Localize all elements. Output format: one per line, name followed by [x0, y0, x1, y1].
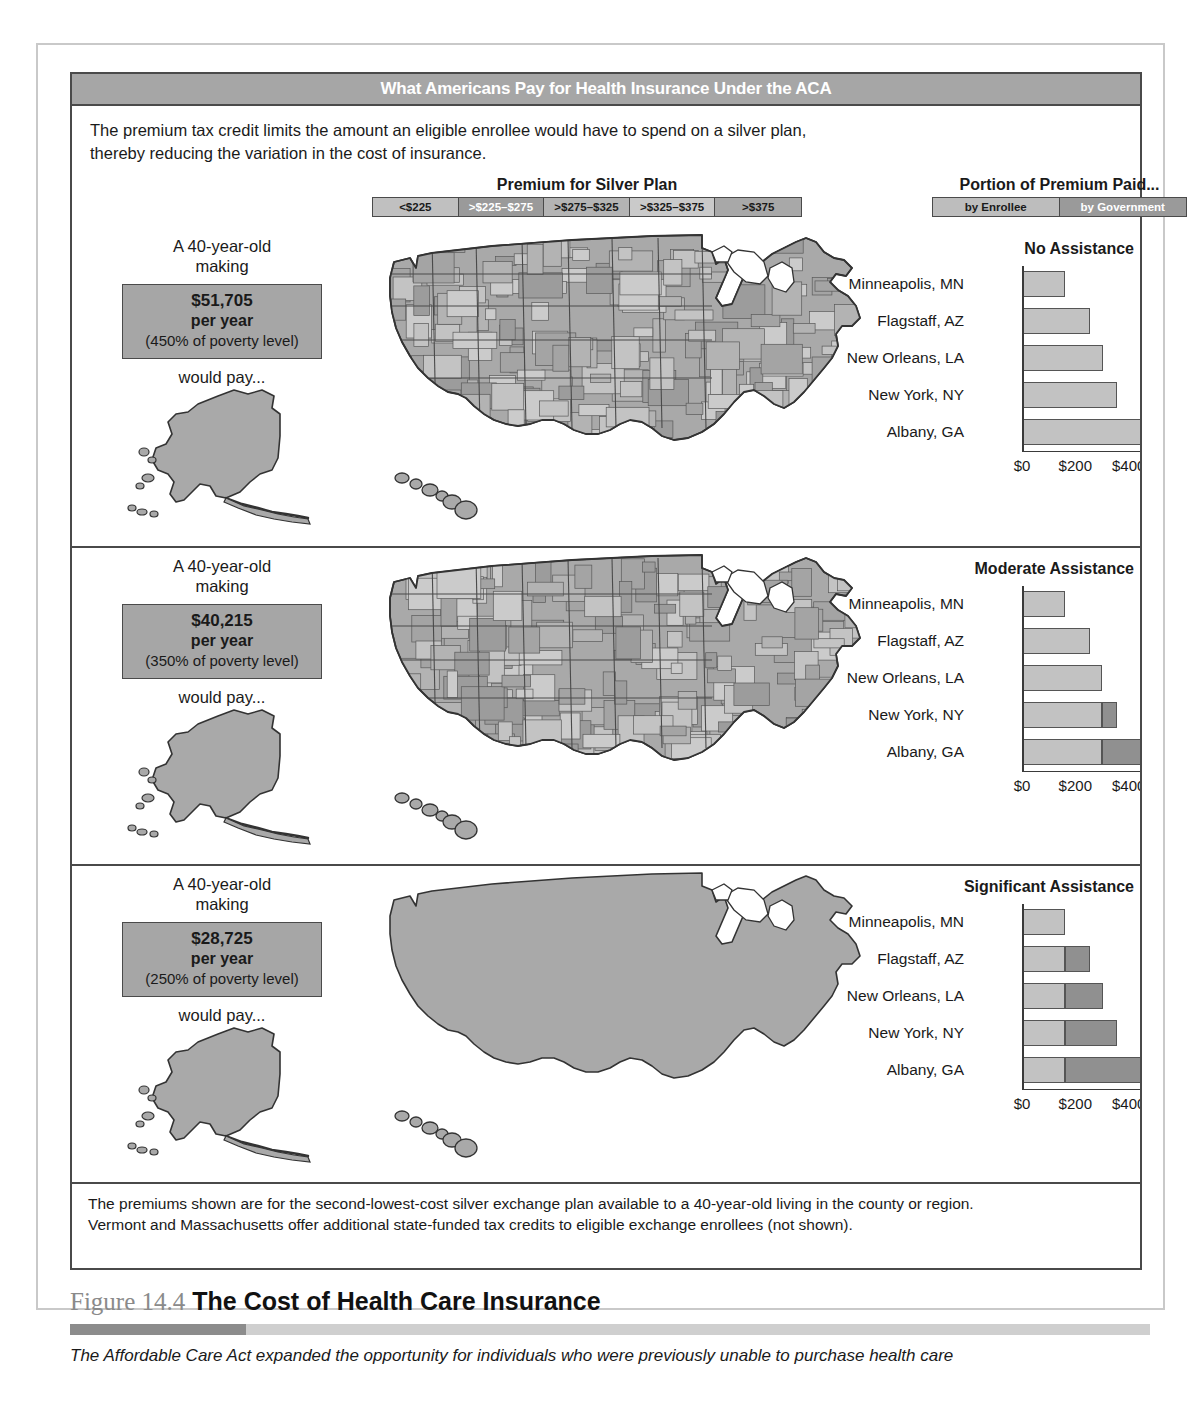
bar-segment-government[interactable]	[1102, 702, 1117, 728]
bar-label: Minneapolis, MN	[774, 595, 964, 613]
bar-label: Minneapolis, MN	[774, 275, 964, 293]
bar-segment-enrollee[interactable]	[1022, 702, 1102, 728]
bar-segment-enrollee[interactable]	[1022, 382, 1117, 408]
bar-segment-government[interactable]	[1065, 1057, 1140, 1083]
chart-no-assistance: No AssistanceMinneapolis, MNFlagstaff, A…	[877, 228, 1140, 546]
chart-plot-area: Minneapolis, MNFlagstaff, AZNew Orleans,…	[877, 266, 1140, 451]
bar-label: Flagstaff, AZ	[774, 312, 964, 330]
portion-legend-heading: Portion of Premium Paid...	[932, 176, 1187, 194]
panel-moderate-assistance: A 40-year-oldmaking$40,215per year(350% …	[72, 546, 1140, 864]
bar-label: New Orleans, LA	[774, 349, 964, 367]
alaska-map	[122, 1012, 337, 1172]
bar-row[interactable]: New Orleans, LA	[877, 978, 1140, 1015]
bar-segment-enrollee[interactable]	[1022, 345, 1103, 371]
bar-track	[1022, 665, 1140, 691]
portion-legend: Portion of Premium Paid... by Enrolleeby…	[932, 176, 1187, 217]
chart-plot-area: Minneapolis, MNFlagstaff, AZNew Orleans,…	[877, 586, 1140, 771]
panel-significant-assistance: A 40-year-oldmaking$28,725per year(250% …	[72, 864, 1140, 1182]
bar-row[interactable]: New York, NY	[877, 377, 1140, 414]
bar-row[interactable]: New York, NY	[877, 1015, 1140, 1052]
bar-segment-government[interactable]	[1065, 983, 1104, 1009]
bar-segment-enrollee[interactable]	[1022, 909, 1065, 935]
x-tick-label: $400	[1112, 1095, 1140, 1112]
panel-left-column: A 40-year-oldmaking$28,725per year(250% …	[72, 866, 372, 1182]
caption-figure-number: Figure 14.4	[70, 1288, 185, 1315]
bar-label: Flagstaff, AZ	[774, 632, 964, 650]
footnote-line-1: The premiums shown are for the second-lo…	[88, 1193, 1124, 1214]
x-tick-label: $0	[1014, 457, 1031, 474]
x-tick-label: $200	[1059, 777, 1092, 794]
bar-segment-government[interactable]	[1102, 739, 1140, 765]
portion-swatch-strip: by Enrolleeby Government	[932, 197, 1187, 217]
bar-segment-enrollee[interactable]	[1022, 1020, 1065, 1046]
bar-segment-enrollee[interactable]	[1022, 628, 1090, 654]
x-tick-label: $0	[1014, 1095, 1031, 1112]
bar-segment-government[interactable]	[1065, 1020, 1117, 1046]
income-box: $51,705per year(450% of poverty level)	[122, 284, 322, 359]
figure-caption: Figure 14.4 The Cost of Health Care Insu…	[70, 1288, 1150, 1366]
bar-track	[1022, 591, 1140, 617]
premium-legend: Premium for Silver Plan <$225>$225–$275>…	[372, 176, 802, 217]
intro-text: The premium tax credit limits the amount…	[72, 106, 1140, 174]
bar-segment-enrollee[interactable]	[1022, 271, 1065, 297]
premium-swatch-0[interactable]: <$225	[373, 198, 459, 216]
bar-segment-enrollee[interactable]	[1022, 946, 1065, 972]
lead-line-1: A 40-year-old	[72, 874, 372, 895]
portion-swatch-0[interactable]: by Enrollee	[933, 198, 1060, 216]
chart-y-axis	[1022, 904, 1024, 1089]
bar-segment-enrollee[interactable]	[1022, 419, 1140, 445]
caption-rule	[70, 1324, 1150, 1335]
bar-segment-enrollee[interactable]	[1022, 1057, 1065, 1083]
premium-swatch-3[interactable]: >$325–$375	[630, 198, 716, 216]
bar-row[interactable]: Minneapolis, MN	[877, 586, 1140, 623]
bar-row[interactable]: Minneapolis, MN	[877, 904, 1140, 941]
bar-segment-enrollee[interactable]	[1022, 591, 1065, 617]
footnote-line-2: Vermont and Massachusetts offer addition…	[88, 1214, 1124, 1235]
premium-swatch-2[interactable]: >$275–$325	[544, 198, 630, 216]
panel-left-column: A 40-year-oldmaking$40,215per year(350% …	[72, 548, 372, 864]
bar-row[interactable]: Flagstaff, AZ	[877, 303, 1140, 340]
bar-row[interactable]: Albany, GA	[877, 414, 1140, 451]
bar-segment-enrollee[interactable]	[1022, 665, 1102, 691]
alaska-map	[122, 374, 337, 534]
bar-row[interactable]: New Orleans, LA	[877, 660, 1140, 697]
bar-row[interactable]: New York, NY	[877, 697, 1140, 734]
chart-title: No Assistance	[877, 240, 1140, 258]
bar-row[interactable]: New Orleans, LA	[877, 340, 1140, 377]
bar-row[interactable]: Flagstaff, AZ	[877, 623, 1140, 660]
income-poverty-note: (450% of poverty level)	[125, 331, 319, 351]
premium-swatch-1[interactable]: >$225–$275	[459, 198, 545, 216]
bar-track	[1022, 983, 1140, 1009]
chart-significant-assistance: Significant AssistanceMinneapolis, MNFla…	[877, 866, 1140, 1182]
bar-row[interactable]: Albany, GA	[877, 1052, 1140, 1089]
income-amount: $40,215	[125, 611, 319, 631]
intro-line-2: thereby reducing the variation in the co…	[90, 142, 1122, 165]
portion-swatch-1[interactable]: by Government	[1060, 198, 1187, 216]
bar-segment-enrollee[interactable]	[1022, 983, 1065, 1009]
bar-label: New Orleans, LA	[774, 669, 964, 687]
chart-y-axis	[1022, 266, 1024, 451]
bar-track	[1022, 909, 1140, 935]
chart-x-tick-labels: $0$200$400$600	[995, 777, 1140, 799]
bar-track	[1022, 382, 1140, 408]
bar-segment-enrollee[interactable]	[1022, 308, 1090, 334]
premium-swatch-strip: <$225>$225–$275>$275–$325>$325–$375>$375	[372, 197, 802, 217]
figure-container: What Americans Pay for Health Insurance …	[70, 72, 1142, 1270]
bar-track	[1022, 345, 1140, 371]
bar-row[interactable]: Albany, GA	[877, 734, 1140, 771]
chart-x-axis	[1022, 771, 1140, 773]
bar-segment-government[interactable]	[1065, 946, 1090, 972]
figure-title-bar: What Americans Pay for Health Insurance …	[72, 74, 1140, 106]
bar-segment-enrollee[interactable]	[1022, 739, 1102, 765]
income-period: per year	[125, 311, 319, 331]
premium-swatch-4[interactable]: >$375	[715, 198, 801, 216]
bar-row[interactable]: Minneapolis, MN	[877, 266, 1140, 303]
income-poverty-note: (250% of poverty level)	[125, 969, 319, 989]
intro-line-1: The premium tax credit limits the amount…	[90, 119, 1122, 142]
bar-track	[1022, 946, 1140, 972]
premium-legend-heading: Premium for Silver Plan	[372, 176, 802, 194]
income-amount: $51,705	[125, 291, 319, 311]
bar-track	[1022, 271, 1140, 297]
bar-row[interactable]: Flagstaff, AZ	[877, 941, 1140, 978]
bar-label: New Orleans, LA	[774, 987, 964, 1005]
